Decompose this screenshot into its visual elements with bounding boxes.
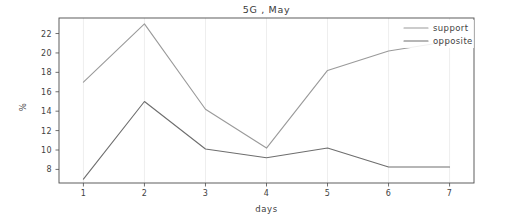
x-axis: 1234567 [81,183,453,198]
x-axis-label: days [255,204,277,214]
x-tick-label: 7 [447,189,453,198]
x-tick-label: 2 [142,189,148,198]
y-tick-label: 10 [41,146,52,155]
legend-label-opposite: opposite [433,36,473,46]
y-tick-label: 14 [41,107,52,116]
chart-legend[interactable]: support opposite [398,20,474,48]
line-chart-canvas: 810121416182022 1234567 5G , May % days … [0,0,519,223]
y-tick-label: 18 [41,68,52,77]
y-tick-label: 8 [47,165,53,174]
chart-title: 5G , May [243,4,291,15]
y-axis-label: % [18,103,28,112]
y-tick-label: 20 [41,49,52,58]
x-tick-label: 3 [203,189,209,198]
y-tick-label: 12 [41,127,52,136]
chart-figure: 810121416182022 1234567 5G , May % days … [0,0,519,223]
x-tick-label: 1 [81,189,87,198]
y-axis: 810121416182022 [41,30,59,175]
legend-label-support: support [433,23,469,33]
y-tick-label: 22 [41,30,52,39]
x-tick-label: 6 [386,189,392,198]
y-tick-label: 16 [41,88,52,97]
x-tick-label: 4 [264,189,270,198]
x-tick-label: 5 [325,189,331,198]
